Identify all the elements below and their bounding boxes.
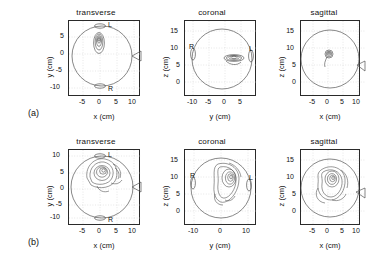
- axis-label-x: x (cm): [300, 241, 360, 250]
- svg-text:R: R: [190, 172, 195, 179]
- svg-text:L: L: [249, 174, 253, 181]
- panel-b-coronal: coronal z (cm): [162, 137, 262, 255]
- panel-b-sagittal: sagittal z (cm): [278, 137, 370, 255]
- figure-row-a: (a) transverse y (cm): [0, 0, 370, 129]
- y-tick: 0: [164, 207, 180, 214]
- plot-area: [300, 149, 360, 225]
- y-tick: 5: [164, 190, 180, 197]
- axis-label-x: y (cm): [184, 112, 256, 121]
- axis-label-x: x (cm): [300, 112, 360, 121]
- panel-a-coronal: coronal z (cm): [162, 8, 262, 126]
- x-tick: 10: [347, 98, 365, 105]
- axis-label-x: x (cm): [68, 241, 140, 250]
- y-tick: 10: [278, 44, 294, 51]
- x-tick: 10: [123, 227, 141, 234]
- y-tick: 0: [48, 184, 64, 191]
- plot-area: R L: [184, 20, 256, 96]
- y-tick: 10: [278, 173, 294, 180]
- svg-text:R: R: [108, 216, 113, 223]
- y-tick: 0: [280, 207, 296, 214]
- x-tick: 10: [347, 227, 365, 234]
- y-tick: 5: [280, 61, 296, 68]
- panel-title: sagittal: [278, 8, 370, 17]
- y-tick: 10: [162, 173, 178, 180]
- panel-a-sagittal: sagittal z (cm): [278, 8, 370, 126]
- panel-a-transverse: transverse y (cm): [46, 8, 146, 126]
- x-tick: 10: [237, 227, 255, 234]
- x-tick: 5: [231, 98, 249, 105]
- y-tick: -5: [46, 200, 62, 207]
- y-tick: 5: [48, 32, 64, 39]
- y-tick: 15: [162, 27, 178, 34]
- y-tick: 10: [44, 151, 60, 158]
- panel-title: sagittal: [278, 137, 370, 146]
- plot-area: R L: [184, 149, 256, 225]
- y-tick: 15: [278, 156, 294, 163]
- y-tick: -10: [44, 83, 60, 90]
- svg-text:L: L: [108, 21, 112, 28]
- figure-panel-grid: (a) transverse y (cm): [0, 0, 370, 258]
- figure-row-b: (b) transverse y (cm): [0, 129, 370, 258]
- y-tick: 5: [48, 168, 64, 175]
- panel-title: coronal: [162, 137, 262, 146]
- panel-title: transverse: [46, 8, 146, 17]
- y-tick: 0: [48, 49, 64, 56]
- svg-text:R: R: [108, 85, 113, 92]
- panel-b-transverse: transverse y (cm): [46, 137, 146, 255]
- x-tick: -5: [73, 98, 91, 105]
- y-tick: 5: [280, 190, 296, 197]
- x-tick: -10: [184, 227, 202, 234]
- y-tick: 15: [162, 156, 178, 163]
- svg-text:L: L: [249, 45, 253, 52]
- panel-title: coronal: [162, 8, 262, 17]
- y-tick: 15: [278, 27, 294, 34]
- axis-label-x: y (cm): [184, 241, 256, 250]
- x-tick: -5: [73, 227, 91, 234]
- plot-area: [300, 20, 360, 96]
- y-tick: 0: [164, 78, 180, 85]
- x-tick: 0: [90, 98, 108, 105]
- svg-text:R: R: [189, 43, 194, 50]
- svg-text:L: L: [108, 151, 112, 158]
- y-tick: 0: [280, 78, 296, 85]
- x-tick: 0: [211, 227, 229, 234]
- x-tick: 10: [123, 98, 141, 105]
- x-tick: 0: [90, 227, 108, 234]
- y-tick: -5: [46, 66, 62, 73]
- plot-area: L R: [68, 20, 140, 96]
- row-label-b: (b): [28, 237, 39, 247]
- axis-label-x: x (cm): [68, 112, 140, 121]
- row-label-a: (a): [28, 108, 39, 118]
- y-tick: 10: [162, 44, 178, 51]
- y-tick: 5: [164, 61, 180, 68]
- panel-title: transverse: [46, 137, 146, 146]
- y-tick: -10: [44, 213, 60, 220]
- plot-area: L R: [68, 149, 140, 225]
